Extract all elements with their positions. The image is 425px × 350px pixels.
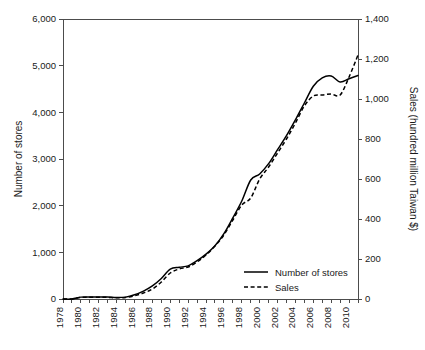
right-tick-label: 800: [365, 133, 381, 144]
x-tick-label: 1978: [54, 307, 65, 328]
x-tick-label: 2004: [286, 307, 297, 328]
x-tick-label: 1996: [215, 307, 226, 328]
x-tick-label: 1980: [72, 307, 83, 328]
x-tick-label: 1988: [143, 307, 154, 328]
right-tick-label: 600: [365, 173, 381, 184]
left-tick-label: 6,000: [32, 13, 56, 24]
left-tick-label: 1,000: [32, 247, 56, 258]
right-tick-label: 1,000: [365, 93, 389, 104]
x-tick-label: 1994: [197, 307, 208, 328]
legend-label-sales: Sales: [275, 282, 299, 293]
x-tick-label: 1986: [126, 307, 137, 328]
line-chart: 01,0002,0003,0004,0005,0006,000 02004006…: [0, 0, 425, 350]
chart-container: 01,0002,0003,0004,0005,0006,000 02004006…: [0, 0, 425, 350]
x-tick-label: 1998: [233, 307, 244, 328]
right-tick-label: 1,400: [365, 13, 389, 24]
x-tick-label: 1990: [161, 307, 172, 328]
x-axis-ticks: 1978198019821984198619881990199219941996…: [54, 299, 358, 328]
right-tick-label: 400: [365, 213, 381, 224]
x-tick-label: 2002: [269, 307, 280, 328]
right-axis-ticks: 02004006008001,0001,2001,400: [358, 13, 389, 304]
series-line-sales: [63, 55, 358, 299]
right-tick-label: 200: [365, 253, 381, 264]
left-tick-label: 2,000: [32, 200, 56, 211]
series-group: [63, 55, 358, 299]
x-tick-label: 2010: [340, 307, 351, 328]
x-tick-label: 1982: [90, 307, 101, 328]
legend: Number of stores Sales: [244, 267, 348, 293]
left-tick-label: 4,000: [32, 107, 56, 118]
right-axis-title: Sales (hundred million Taiwan $): [408, 87, 419, 231]
right-tick-label: 0: [365, 293, 370, 304]
x-tick-label: 2006: [304, 307, 315, 328]
left-tick-label: 5,000: [32, 60, 56, 71]
left-axis-ticks: 01,0002,0003,0004,0005,0006,000: [32, 13, 63, 304]
legend-label-number-of-stores: Number of stores: [275, 267, 348, 278]
x-tick-label: 1992: [179, 307, 190, 328]
left-tick-label: 3,000: [32, 153, 56, 164]
x-tick-label: 2008: [322, 307, 333, 328]
left-axis-title: Number of stores: [13, 121, 24, 198]
left-tick-label: 0: [51, 293, 56, 304]
x-tick-label: 1984: [108, 307, 119, 328]
plot-frame: [63, 19, 358, 299]
right-tick-label: 1,200: [365, 53, 389, 64]
x-tick-label: 2000: [251, 307, 262, 328]
